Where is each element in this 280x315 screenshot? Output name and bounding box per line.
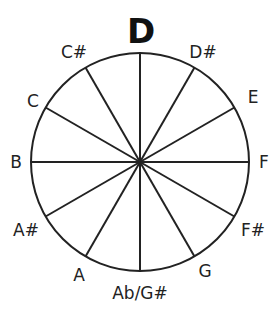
spoke-line <box>86 68 141 162</box>
spoke-line <box>86 162 141 256</box>
note-label-d-sharp: D# <box>189 44 216 61</box>
note-label-a: A <box>73 267 85 284</box>
spoke-line <box>46 162 140 217</box>
note-label-g: G <box>198 263 211 280</box>
spoke-line <box>140 162 234 217</box>
note-label-c: C <box>27 93 39 110</box>
note-label-a-sharp: A# <box>13 222 39 239</box>
root-note-label: D <box>127 14 155 48</box>
spoke-line <box>140 108 234 163</box>
spoke-line <box>140 162 195 256</box>
note-label-ab-g-sharp: Ab/G# <box>112 285 168 302</box>
spoke-line <box>46 108 140 163</box>
note-label-c-sharp: C# <box>61 44 87 61</box>
spokes <box>31 53 249 271</box>
note-label-b: B <box>10 154 22 171</box>
note-label-f-sharp: F# <box>241 222 265 239</box>
spoke-line <box>140 68 195 162</box>
note-label-f: F <box>259 154 269 171</box>
note-label-e: E <box>248 89 259 106</box>
